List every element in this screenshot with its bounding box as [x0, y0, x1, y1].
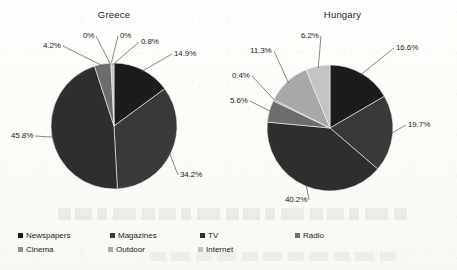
leader-line — [142, 54, 172, 72]
legend-item-newspapers[interactable]: Newspapers — [18, 231, 70, 240]
legend-item-internet[interactable]: Internet — [198, 245, 233, 254]
pie-chart-greece: Greece 14.9%34.2%45.8%4.2%0%0%0.8% — [0, 0, 228, 228]
legend-item-cinema[interactable]: Cinema — [18, 245, 54, 254]
legend-label: Cinema — [26, 245, 54, 254]
legend-swatch-icon — [200, 233, 205, 238]
data-label-radio: 5.6% — [230, 96, 248, 105]
data-label-magazines: 19.7% — [408, 120, 430, 129]
leader-line — [35, 136, 54, 137]
legend-item-radio[interactable]: Radio — [295, 231, 324, 240]
data-label-radio: 4.2% — [43, 41, 61, 50]
legend-swatch-icon — [18, 247, 23, 252]
legend-label: Internet — [206, 245, 233, 254]
leader-line — [113, 42, 140, 65]
leader-line — [63, 46, 103, 66]
data-label-outdoor: 11.3% — [250, 46, 272, 55]
leader-line — [250, 101, 271, 112]
legend-label: Radio — [303, 231, 324, 240]
data-label-tv: 40.2% — [285, 195, 307, 204]
chart-legend: NewspapersMagazinesTVRadio CinemaOutdoor… — [0, 228, 457, 270]
pie-chart-hungary: Hungary 16.6%19.7%40.2%5.6%0.4%11.3%6.2% — [228, 0, 457, 228]
data-label-newspapers: 14.9% — [174, 49, 196, 58]
data-label-cinema: 0% — [83, 31, 94, 40]
leader-line — [96, 36, 111, 65]
legend-item-magazines[interactable]: Magazines — [110, 231, 157, 240]
pie-svg-hungary — [228, 0, 457, 228]
data-label-internet: 0.8% — [141, 37, 159, 46]
legend-swatch-icon — [110, 233, 115, 238]
leader-line — [252, 76, 275, 101]
data-label-outdoor: 0% — [120, 31, 131, 40]
pie-svg-greece — [0, 0, 228, 228]
data-label-newspapers: 16.6% — [396, 43, 418, 52]
data-label-magazines: 34.2% — [180, 170, 202, 179]
leader-line — [360, 48, 394, 75]
legend-label: Newspapers — [26, 231, 70, 240]
legend-swatch-icon — [198, 247, 203, 252]
data-label-cinema: 0.4% — [232, 71, 250, 80]
legend-label: TV — [208, 231, 218, 240]
legend-label: Magazines — [118, 231, 157, 240]
legend-item-tv[interactable]: TV — [200, 231, 218, 240]
leader-line — [274, 51, 289, 83]
legend-swatch-icon — [18, 233, 23, 238]
data-label-internet: 6.2% — [301, 31, 319, 40]
leader-line — [169, 152, 178, 175]
leader-line — [318, 36, 321, 68]
legend-label: Outdoor — [116, 245, 145, 254]
data-label-tv: 45.8% — [11, 131, 33, 140]
legend-item-outdoor[interactable]: Outdoor — [108, 245, 145, 254]
legend-swatch-icon — [108, 247, 113, 252]
legend-swatch-icon — [295, 233, 300, 238]
